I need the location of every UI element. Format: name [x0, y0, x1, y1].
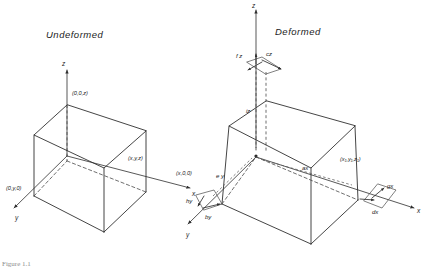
deformed-vertex-label-front-right-top: (x₁,y₁,z₁) [340, 156, 361, 162]
deformed-cz-arrow [262, 60, 281, 69]
undeformed-y-axis [14, 156, 67, 208]
undeformed-x-axis-label: x [191, 190, 196, 197]
panel-undeformed: Undeformed z x y (0, [6, 29, 196, 232]
panel-deformed: Deformed z x y f z cz iz [185, 2, 421, 244]
deformed-hidden-edge-left [222, 157, 256, 204]
figure-container: Undeformed z x y (0, [0, 0, 428, 270]
deformed-annotation-cz: cz [266, 51, 272, 57]
deformed-edge-bottom-right [311, 200, 358, 244]
undeformed-title: Undeformed [46, 29, 103, 40]
deformed-annotation-fz: f z [236, 53, 242, 59]
deformed-hidden-edge-right [256, 157, 358, 200]
deformed-annotation-ey: e y [216, 173, 225, 179]
deformed-annotation-ax: ax [302, 165, 309, 171]
deformed-y-axis-label: y [185, 231, 190, 239]
deformation-diagram: Undeformed z x y (0, [0, 0, 428, 270]
undeformed-y-axis-label: y [14, 214, 19, 222]
deformed-x-axis-label: x [416, 207, 421, 214]
figure-caption: Figure 1.1 [2, 260, 31, 268]
deformed-title: Deformed [275, 26, 321, 37]
deformed-z-axis-label: z [251, 2, 256, 9]
deformed-top-cap-parallelogram [247, 57, 281, 74]
deformed-annotation-gx: gx [387, 183, 394, 189]
undeformed-vertex-label-origin-top: (0,0,z) [72, 90, 88, 96]
deformed-annotation-dx: dx [372, 209, 379, 215]
undeformed-z-axis-label: z [61, 60, 66, 67]
deformed-annotation-hy: hy [186, 198, 193, 204]
undeformed-vertex-label-y-corner: (0,y,0) [6, 185, 22, 191]
undeformed-vertex-label-front-right-top: (x,y,z) [128, 155, 143, 161]
undeformed-edge-bottom-left [34, 196, 104, 232]
deformed-fz-arrow [248, 62, 262, 70]
undeformed-edge-bottom-right [104, 192, 146, 232]
deformed-edge-left-vertical [222, 126, 229, 204]
deformed-edge-bottom-left [222, 204, 311, 244]
deformed-annotation-by: by [205, 214, 212, 220]
deformed-y-axis [188, 157, 256, 224]
undeformed-hidden-edge-left [34, 161, 67, 196]
undeformed-vertex-label-x-corner: (x,0,0) [176, 170, 192, 176]
deformed-dx-arrow [360, 199, 374, 200]
